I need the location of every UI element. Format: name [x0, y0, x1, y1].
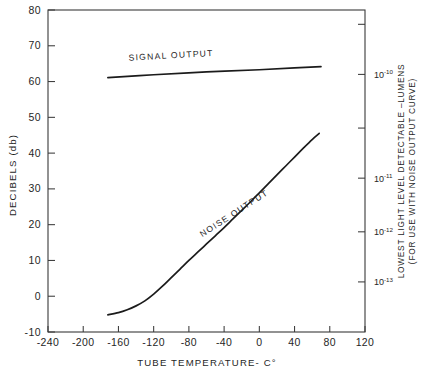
y-tick-label: 0	[35, 290, 41, 302]
y-tick-label: 70	[29, 39, 41, 51]
y-tick-label: 30	[29, 182, 41, 194]
x-tick-label: -40	[216, 336, 232, 348]
secondary-y-axis-title-line2: (FOR USE WITH NOISE OUTPUT CURVE)	[407, 78, 417, 264]
x-tick-label: 0	[256, 336, 262, 348]
secondary-y-axis-title-line1: LOWEST LIGHT LEVEL DETECTABLE –LUMENS	[396, 64, 406, 279]
y-axis-title: DECIBELS (db)	[7, 134, 18, 216]
y-tick-label: -10	[25, 326, 41, 338]
y-tick-label: 60	[29, 75, 41, 87]
chart-canvas: -240-200-160-120-80-4004080120 -10010203…	[0, 0, 423, 379]
x-tick-label: 80	[324, 336, 336, 348]
y-tick-label: 40	[29, 147, 41, 159]
x-tick-label: -120	[142, 336, 165, 348]
figure-root: -240-200-160-120-80-4004080120 -10010203…	[0, 0, 423, 379]
y-tick-label: 80	[29, 4, 41, 16]
y-tick-label: 10	[29, 254, 41, 266]
y-tick-label: 50	[29, 111, 41, 123]
x-tick-label: -240	[37, 336, 60, 348]
x-tick-label: -80	[181, 336, 197, 348]
x-tick-label: 40	[288, 336, 300, 348]
y-tick-label: 20	[29, 218, 41, 230]
x-axis-title: TUBE TEMPERATURE- C°	[137, 357, 276, 368]
x-tick-label: -200	[72, 336, 95, 348]
x-tick-label: 120	[356, 336, 375, 348]
x-tick-label: -160	[107, 336, 130, 348]
